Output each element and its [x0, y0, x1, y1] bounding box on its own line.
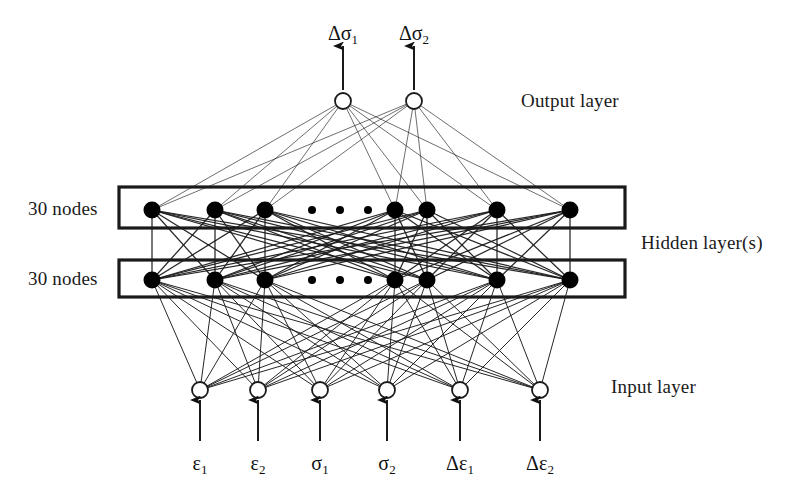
- input-label-6: Δε2: [526, 452, 554, 475]
- input-output-nodes: [192, 93, 548, 398]
- ellipsis-dot: [364, 276, 372, 284]
- connection-line: [395, 101, 414, 210]
- ellipsis-dot: [336, 276, 344, 284]
- hidden-bottom-node-count-label: 30 nodes: [28, 268, 98, 290]
- input-label-subscript: 1: [201, 462, 208, 477]
- input-node: [532, 382, 548, 398]
- output-label-symbol: Δσ: [399, 22, 423, 44]
- input-label-symbol: Δε: [526, 452, 547, 474]
- ellipsis-dot: [364, 206, 372, 214]
- input-node: [312, 382, 328, 398]
- input-layer-label: Input layer: [611, 376, 696, 398]
- connection-line: [343, 101, 427, 210]
- output-node: [335, 93, 351, 109]
- input-node: [379, 382, 395, 398]
- connection-line: [152, 101, 414, 210]
- output-label-1: Δσ1: [328, 22, 358, 45]
- ellipsis-dot: [336, 206, 344, 214]
- input-label-subscript: 2: [259, 462, 266, 477]
- hidden-node: [144, 272, 161, 289]
- connection-line: [215, 101, 343, 210]
- hidden-node: [257, 202, 274, 219]
- neural-network-diagram: Output layer Hidden layer(s) Input layer…: [0, 0, 809, 491]
- edges-hidden-top-to-output: [152, 101, 570, 210]
- connection-line: [343, 101, 497, 210]
- hidden-node: [562, 202, 579, 219]
- hidden-node: [419, 272, 436, 289]
- input-label-subscript: 1: [322, 462, 329, 477]
- input-label-4: σ2: [378, 452, 395, 475]
- connection-line: [265, 101, 343, 210]
- edges-hidden-bottom-to-hidden-top: [152, 210, 570, 280]
- input-label-5: Δε1: [446, 452, 474, 475]
- output-label-symbol: Δσ: [328, 22, 352, 44]
- input-label-2: ε2: [251, 452, 266, 475]
- hidden-node: [419, 202, 436, 219]
- input-label-subscript: 2: [547, 462, 554, 477]
- input-label-symbol: σ: [378, 452, 389, 474]
- hidden-node: [489, 272, 506, 289]
- input-label-subscript: 1: [467, 462, 474, 477]
- hidden-node: [387, 272, 404, 289]
- ellipsis-dot: [308, 276, 316, 284]
- input-label-1: ε1: [193, 452, 208, 475]
- input-node: [192, 382, 208, 398]
- connection-line: [343, 101, 395, 210]
- hidden-node: [257, 272, 274, 289]
- input-label-symbol: Δε: [446, 452, 467, 474]
- input-label-subscript: 2: [389, 462, 396, 477]
- input-label-3: σ1: [311, 452, 328, 475]
- output-layer-label: Output layer: [521, 90, 619, 112]
- input-label-symbol: σ: [311, 452, 322, 474]
- connection-line: [265, 101, 414, 210]
- output-label-subscript: 2: [423, 32, 430, 47]
- hidden-node: [144, 202, 161, 219]
- connection-line: [414, 101, 570, 210]
- output-label-2: Δσ2: [399, 22, 429, 45]
- hidden-node: [207, 272, 224, 289]
- hidden-node: [387, 202, 404, 219]
- ellipsis-dot: [308, 206, 316, 214]
- hidden-layers-label: Hidden layer(s): [641, 232, 763, 254]
- connection-line: [343, 101, 570, 210]
- output-label-subscript: 1: [352, 32, 359, 47]
- output-node: [406, 93, 422, 109]
- input-node: [452, 382, 468, 398]
- hidden-top-node-count-label: 30 nodes: [28, 198, 98, 220]
- hidden-node: [489, 202, 506, 219]
- input-node: [250, 382, 266, 398]
- hidden-node: [562, 272, 579, 289]
- connection-line: [414, 101, 497, 210]
- hidden-node: [207, 202, 224, 219]
